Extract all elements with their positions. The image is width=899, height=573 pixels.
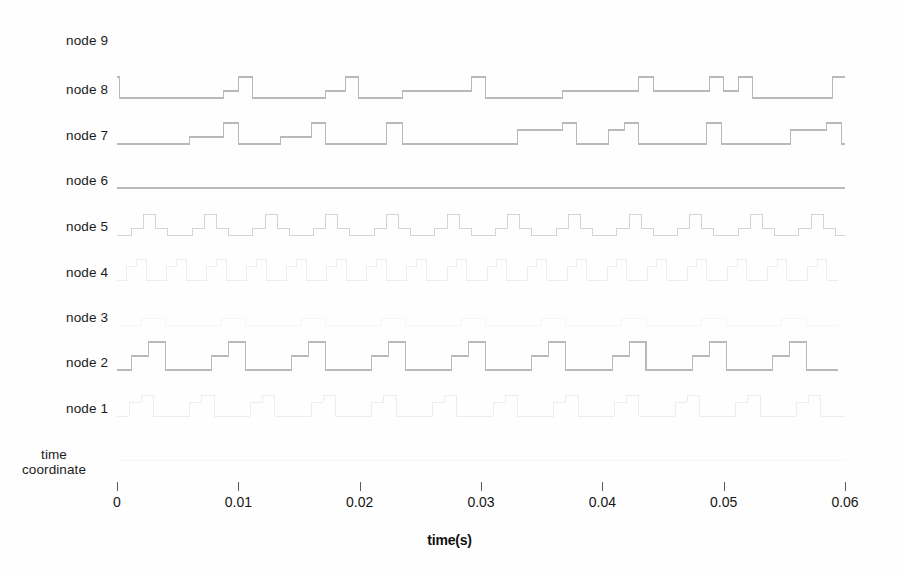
x-axis-tick-label: 0.02 [346,494,373,510]
x-axis-tick [845,482,846,491]
x-axis-tick [724,482,725,491]
x-axis-tick-label: 0.05 [710,494,737,510]
waveform-trace [117,342,838,370]
x-axis-tick-label: 0.03 [467,494,494,510]
y-label-node-9: node 9 [66,33,108,48]
y-label-node-3: node 3 [66,310,108,325]
x-axis-tick [360,482,361,491]
y-label-node-4: node 4 [66,265,108,280]
x-axis-tick [117,482,118,491]
y-label-time-coordinate: time coordinate [0,447,108,477]
x-axis-tick [238,482,239,491]
y-label-node-7: node 7 [66,128,108,143]
y-label-node-8: node 8 [66,82,108,97]
y-label-node-2: node 2 [66,355,108,370]
y-label-node-1: node 1 [66,401,108,416]
waveform-trace [117,123,845,144]
x-axis-title: time(s) [0,532,899,548]
waveform-trace [117,77,845,98]
x-axis-tick [602,482,603,491]
x-axis-tick [481,482,482,491]
waveform-traces [117,20,845,482]
x-axis-tick-label: 0.04 [589,494,616,510]
x-axis-tick-label: 0 [113,494,121,510]
y-axis-label-group: node 9 node 8 node 7 node 6 node 5 node … [0,0,108,573]
x-axis-tick-label: 0.01 [225,494,252,510]
y-label-node-5: node 5 [66,219,108,234]
waveform-figure: node 9 node 8 node 7 node 6 node 5 node … [0,0,899,573]
waveform-trace [117,395,845,416]
y-label-node-6: node 6 [66,173,108,188]
x-axis-tick-label: 0.06 [831,494,858,510]
waveform-trace [117,259,838,280]
waveform-trace [117,214,845,235]
waveform-trace [117,318,838,325]
plot-area [117,20,845,482]
